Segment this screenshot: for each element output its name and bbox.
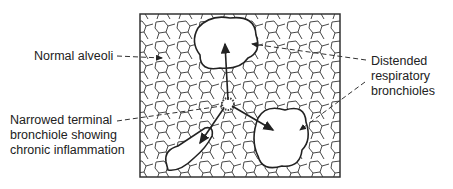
- label-narrowed-bronchiole: Narrowed terminal bronchiole showing chr…: [10, 113, 125, 158]
- label-distended-bronchioles: Distended respiratory bronchioles: [371, 54, 435, 99]
- distended-bronchiole-right: [254, 108, 308, 167]
- label-normal-alveoli: Normal alveoli: [34, 49, 113, 64]
